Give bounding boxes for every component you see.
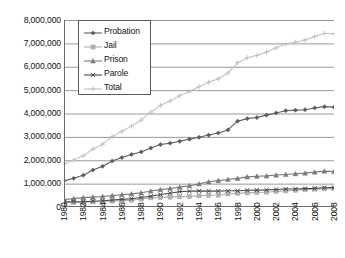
chart-legend: ProbationJailPrisonParoleTotal	[78, 20, 151, 95]
triangle-marker-icon	[83, 53, 103, 65]
x-tick-label: 1984	[99, 212, 108, 221]
legend-marker-glyph	[91, 45, 95, 49]
x-tick-label: 2008	[330, 212, 339, 221]
legend-item-label: Total	[103, 82, 122, 92]
x-tick-label: 2002	[272, 212, 281, 221]
diamond-legend-marker-icon	[83, 27, 103, 39]
legend-item-jail[interactable]: Jail	[83, 38, 150, 52]
diamond-marker-icon	[83, 25, 103, 37]
x-tick-label: 1990	[156, 212, 165, 221]
x-tick-label: 1996	[214, 212, 223, 221]
legend-marker-glyph	[91, 87, 96, 92]
x-tick-label: 2000	[253, 212, 262, 221]
triangle-legend-marker-icon	[83, 55, 103, 67]
x-marker-icon	[83, 67, 103, 79]
data-point-marker	[91, 45, 95, 49]
x-tick-label: 2004	[291, 212, 300, 221]
x-tick-label: 2006	[311, 212, 320, 221]
data-point-marker	[91, 31, 95, 35]
legend-item-label: Probation	[103, 26, 140, 36]
legend-item-parole[interactable]: Parole	[83, 66, 150, 80]
legend-item-label: Jail	[103, 40, 117, 50]
square-marker-icon	[83, 39, 103, 51]
x-tick-label: 1988	[137, 212, 146, 221]
legend-marker-glyph	[91, 31, 95, 35]
x-tick-label: 1986	[118, 212, 127, 221]
plus-marker-icon	[83, 81, 103, 93]
legend-item-prison[interactable]: Prison	[83, 52, 150, 66]
x-axis: 1980198219841986198819901992199419961998…	[0, 0, 345, 258]
x-legend-marker-icon	[83, 69, 103, 81]
x-tick-label: 1980	[60, 212, 69, 221]
legend-item-label: Prison	[103, 54, 128, 64]
legend-item-total[interactable]: Total	[83, 80, 150, 94]
plus-legend-marker-icon	[83, 83, 103, 95]
x-tick-label: 1998	[234, 212, 243, 221]
line-chart-figure: 01,000,0002,000,0003,000,0004,000,0005,0…	[0, 0, 345, 258]
x-tick-label: 1992	[176, 212, 185, 221]
x-tick-label: 1994	[195, 212, 204, 221]
x-tick-label: 1982	[79, 212, 88, 221]
square-legend-marker-icon	[83, 41, 103, 53]
legend-item-label: Parole	[103, 68, 128, 78]
legend-item-probation[interactable]: Probation	[83, 24, 150, 38]
